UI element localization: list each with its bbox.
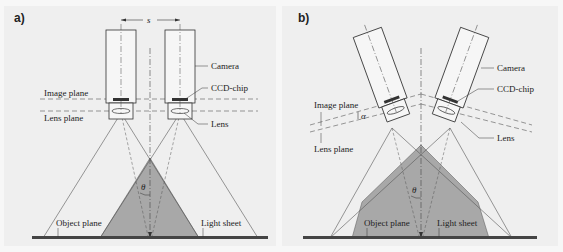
ccd-chip-label: CCD-chip — [211, 83, 248, 93]
theta-label: θ — [412, 185, 417, 195]
lens-leader — [461, 122, 494, 138]
image-plane-label: Image plane — [44, 88, 88, 98]
panel-a-parallel-setup: a) s θ — [4, 6, 276, 246]
arrow-right-icon — [175, 19, 180, 22]
object-plane-bar — [32, 236, 268, 239]
lens-plane-label: Lens plane — [314, 144, 353, 154]
arrow-left-icon — [121, 19, 126, 22]
lens-label: Lens — [211, 119, 229, 129]
panel-a-diagram: a) s θ — [4, 6, 276, 246]
lens-plane-label: Lens plane — [44, 113, 83, 123]
camera-label: Camera — [211, 61, 239, 71]
alpha-label: α — [361, 111, 366, 121]
panel-b-angular-setup: b) θ — [282, 6, 558, 246]
light-sheet-label: Light sheet — [437, 218, 478, 228]
light-sheet-label: Light sheet — [201, 218, 242, 228]
lens-label: Lens — [497, 133, 515, 143]
panel-a-tag: a) — [14, 11, 25, 25]
overlap-region — [100, 158, 199, 238]
spacing-label: s — [147, 15, 151, 25]
right-camera — [429, 20, 491, 123]
theta-label: θ — [141, 182, 146, 192]
object-plane-bar — [303, 236, 537, 239]
image-plane-label: Image plane — [314, 100, 358, 110]
left-camera — [350, 20, 412, 123]
camera-label: Camera — [497, 63, 525, 73]
panel-b-diagram: b) θ — [282, 6, 558, 246]
object-plane-label: Object plane — [56, 218, 102, 228]
panel-b-tag: b) — [298, 11, 309, 25]
ccd-chip-label: CCD-chip — [497, 84, 534, 94]
object-plane-label: Object plane — [364, 218, 410, 228]
